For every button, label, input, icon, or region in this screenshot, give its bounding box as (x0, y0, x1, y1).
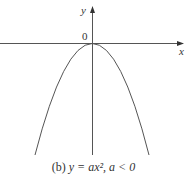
caption-equation: y = ax², a < 0 (69, 160, 135, 174)
x-axis-label: x (178, 45, 184, 57)
y-axis-arrow-icon (90, 6, 95, 13)
parabola-diagram: y 0 x (0, 0, 187, 182)
origin-label: 0 (82, 30, 88, 42)
y-axis-label: y (80, 4, 86, 16)
figure-caption: (b) y = ax², a < 0 (0, 160, 187, 175)
caption-prefix: (b) (52, 160, 66, 174)
